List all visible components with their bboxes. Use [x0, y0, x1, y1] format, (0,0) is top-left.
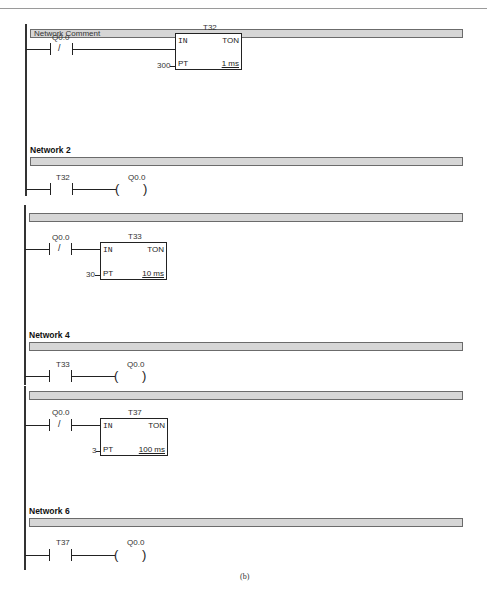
rung-1-wire-right: [72, 49, 175, 50]
rung-4-wire-left: [25, 376, 49, 377]
timer-pt-pin: PT: [103, 269, 113, 278]
contact-address-label: T37: [56, 538, 70, 547]
nc-contact-left-bar: [49, 243, 50, 255]
rung-3-wire-left: [25, 249, 49, 250]
contact-address-label: Q0.0: [52, 233, 69, 242]
rung-5-wire-right: [71, 425, 101, 426]
timer-name-label: T33: [128, 232, 142, 241]
timer-in-pin: IN: [103, 421, 113, 430]
nc-contact-slash-icon: /: [58, 44, 61, 53]
nc-contact-left-bar: [49, 419, 50, 431]
network-2-title: Network 2: [30, 145, 71, 155]
timer-preset-value[interactable]: 300: [157, 61, 170, 70]
network-6-comment-bar[interactable]: [29, 518, 463, 527]
network-3-comment-bar[interactable]: [29, 213, 463, 222]
coil-left-paren-icon: (: [114, 548, 118, 561]
timer-base-label: 1 ms: [222, 59, 239, 68]
timer-in-pin: IN: [178, 36, 188, 45]
coil-left-paren-icon: (: [115, 182, 119, 195]
figure-caption: (b): [240, 572, 249, 581]
timer-base-label: 10 ms: [142, 269, 164, 278]
no-contact-left-bar: [49, 549, 50, 561]
no-contact-left-bar: [49, 370, 50, 382]
timer-block-t33[interactable]: IN TON PT 10 ms: [100, 242, 167, 280]
nc-contact-slash-icon: /: [58, 244, 61, 253]
network-2-comment-bar[interactable]: [30, 157, 463, 166]
coil-address-label: Q0.0: [127, 538, 144, 547]
coil-left-paren-icon: (: [114, 369, 118, 382]
nc-contact-slash-icon: /: [58, 420, 61, 429]
rung-4-wire-right: [71, 376, 115, 377]
timer-name-label: T37: [128, 408, 142, 417]
network-6-title: Network 6: [29, 506, 70, 516]
network-1-comment-bar[interactable]: Network Comment: [30, 29, 463, 38]
timer-in-pin: IN: [103, 245, 113, 254]
timer-name-label: T32: [203, 23, 217, 32]
timer-type-label: TON: [222, 36, 239, 45]
contact-address-label: T33: [56, 360, 70, 369]
timer-pt-pin: PT: [178, 59, 188, 68]
preset-wire: [95, 275, 100, 276]
coil-address-label: Q0.0: [127, 360, 144, 369]
coil-right-paren-icon: ): [143, 182, 147, 195]
timer-pt-pin: PT: [103, 445, 113, 454]
preset-wire: [170, 66, 175, 67]
network-4-title: Network 4: [29, 330, 70, 340]
rung-1-wire-left: [26, 49, 50, 50]
timer-base-label: 100 ms: [139, 445, 165, 454]
rung-6-wire-left: [25, 555, 49, 556]
preset-wire: [96, 451, 100, 452]
power-rail-2: [24, 205, 26, 385]
rung-2-wire-right: [72, 189, 116, 190]
contact-address-label: T32: [56, 173, 70, 182]
contact-address-label: Q0.0: [52, 33, 69, 42]
timer-type-label: TON: [147, 245, 164, 254]
network-5-comment-bar[interactable]: [29, 391, 463, 400]
timer-block-t37[interactable]: IN TON PT 100 ms: [100, 418, 168, 456]
page-top-rule: [0, 8, 487, 9]
timer-type-label: TON: [148, 421, 165, 430]
contact-address-label: Q0.0: [52, 408, 69, 417]
coil-right-paren-icon: ): [142, 369, 146, 382]
rung-5-wire-left: [25, 425, 49, 426]
network-4-comment-bar[interactable]: [29, 342, 463, 351]
nc-contact-left-bar: [50, 43, 51, 55]
rung-6-wire-right: [71, 555, 115, 556]
rung-3-wire-right: [71, 249, 101, 250]
timer-block-t32[interactable]: IN TON PT 1 ms: [175, 33, 242, 70]
coil-right-paren-icon: ): [142, 548, 146, 561]
power-rail-3: [24, 386, 26, 570]
no-contact-left-bar: [50, 183, 51, 195]
coil-address-label: Q0.0: [128, 173, 145, 182]
rung-2-wire-left: [26, 189, 50, 190]
timer-preset-value[interactable]: 30: [86, 270, 95, 279]
